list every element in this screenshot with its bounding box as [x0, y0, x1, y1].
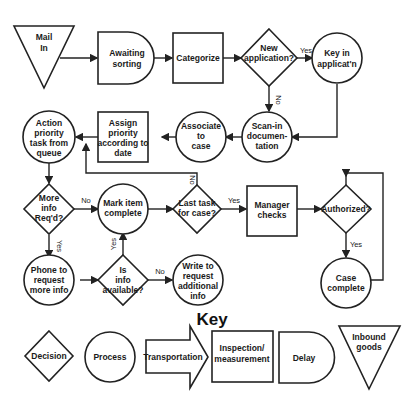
- svg-text:Mark item: Mark item: [103, 198, 143, 208]
- svg-text:priority: priority: [34, 128, 64, 138]
- svg-text:Awaiting: Awaiting: [109, 48, 144, 58]
- svg-text:queue: queue: [36, 148, 61, 158]
- node-mail-in: Mail In: [14, 26, 74, 88]
- svg-text:task from: task from: [30, 138, 69, 148]
- edge-label-info-available-no: No: [155, 267, 165, 276]
- node-categorize: Categorize: [173, 33, 223, 83]
- edge-label-last-task-no: No: [188, 175, 197, 185]
- svg-text:for case?: for case?: [178, 208, 216, 218]
- edge-label-authorized-yes: Yes: [350, 240, 362, 249]
- svg-text:Req'd?: Req'd?: [35, 213, 63, 223]
- node-action-priority: Action priority task from queue: [23, 111, 75, 163]
- edge-label-more-info-no: No: [81, 196, 91, 205]
- node-associate: Associate to case: [176, 112, 226, 162]
- svg-text:New: New: [260, 43, 278, 53]
- svg-text:additional: additional: [178, 281, 218, 291]
- edge-label-new-app-no: No: [274, 95, 283, 105]
- svg-text:request: request: [34, 275, 65, 285]
- svg-text:Assign: Assign: [109, 118, 137, 128]
- node-more-info: More info Req'd?: [24, 184, 74, 234]
- key-transportation: Transportation: [143, 326, 208, 388]
- edge-label-more-info-yes: Yes: [55, 240, 64, 252]
- svg-text:Last task: Last task: [179, 198, 216, 208]
- node-key-in: Key in applicat'n: [312, 33, 362, 83]
- node-assign-priority: Assign priority according to date: [97, 112, 148, 162]
- svg-text:priority: priority: [108, 128, 138, 138]
- svg-text:Associate: Associate: [181, 121, 221, 131]
- node-write-request: Write to request additional info: [173, 255, 223, 305]
- key-title: Key: [196, 310, 228, 329]
- svg-text:complete: complete: [327, 283, 365, 293]
- svg-text:Is: Is: [119, 265, 126, 275]
- node-authorized: Authorized?: [321, 185, 371, 233]
- svg-text:documen-: documen-: [247, 131, 288, 141]
- svg-text:according to: according to: [97, 138, 148, 148]
- flowchart: Yes No No Yes Yes No Yes No Yes Mail In …: [0, 0, 418, 409]
- svg-text:Categorize: Categorize: [176, 53, 220, 63]
- svg-text:Authorized?: Authorized?: [321, 204, 371, 214]
- key-inspection: Inspection/ measurement: [212, 331, 273, 382]
- connectors: [49, 58, 383, 280]
- svg-text:In: In: [40, 43, 48, 53]
- svg-text:Inspection/: Inspection/: [220, 343, 266, 353]
- svg-text:Delay: Delay: [293, 353, 316, 363]
- svg-text:Scan-in: Scan-in: [252, 121, 283, 131]
- svg-text:info: info: [190, 291, 206, 301]
- node-scan-in: Scan-in documen- tation: [242, 112, 292, 162]
- edge-label-last-task-yes: Yes: [228, 196, 240, 205]
- edge-label-info-available-yes: Yes: [109, 238, 118, 250]
- svg-text:applicat'n: applicat'n: [317, 59, 356, 69]
- svg-text:Manager: Manager: [255, 200, 291, 210]
- node-phone: Phone to request more info: [24, 255, 74, 305]
- svg-text:goods: goods: [356, 342, 382, 352]
- node-new-application: New application?: [241, 29, 297, 86]
- key-inbound-goods: Inbound goods: [339, 326, 400, 389]
- node-info-available: Is info available?: [98, 255, 148, 305]
- svg-text:available?: available?: [102, 285, 143, 295]
- key-decision: Decision: [25, 331, 73, 381]
- svg-text:Phone to: Phone to: [31, 265, 67, 275]
- svg-text:checks: checks: [258, 210, 287, 220]
- svg-text:date: date: [114, 148, 132, 158]
- svg-text:Mail: Mail: [36, 32, 53, 42]
- svg-text:Action: Action: [36, 118, 62, 128]
- svg-text:sorting: sorting: [113, 59, 142, 69]
- svg-text:case: case: [192, 141, 211, 151]
- svg-text:Inbound: Inbound: [352, 332, 386, 342]
- svg-text:complete: complete: [104, 208, 142, 218]
- svg-text:Transportation: Transportation: [143, 352, 203, 362]
- svg-text:Key in: Key in: [324, 48, 350, 58]
- svg-text:more info: more info: [30, 285, 69, 295]
- node-manager-checks: Manager checks: [247, 186, 297, 236]
- svg-text:to: to: [197, 131, 205, 141]
- node-awaiting-sorting: Awaiting sorting: [98, 32, 154, 84]
- svg-text:request: request: [183, 271, 214, 281]
- node-mark-complete: Mark item complete: [98, 184, 148, 234]
- svg-text:More: More: [39, 193, 60, 203]
- svg-text:measurement: measurement: [214, 354, 269, 364]
- svg-text:Decision: Decision: [31, 351, 66, 361]
- key-delay: Delay: [279, 332, 335, 383]
- node-case-complete: Case complete: [321, 258, 371, 308]
- svg-text:info: info: [115, 275, 131, 285]
- key-process: Process: [85, 332, 135, 382]
- svg-text:Process: Process: [93, 352, 126, 362]
- svg-text:tation: tation: [255, 141, 278, 151]
- edge-label-new-app-yes: Yes: [300, 46, 312, 55]
- svg-text:application?: application?: [244, 53, 294, 63]
- svg-text:info: info: [41, 203, 57, 213]
- svg-text:Case: Case: [336, 273, 357, 283]
- svg-text:Write to: Write to: [182, 261, 213, 271]
- node-last-task: Last task for case?: [173, 185, 221, 233]
